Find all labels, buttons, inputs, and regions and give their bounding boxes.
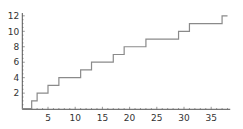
- y-tick-label: 8: [14, 42, 20, 52]
- step-series-line: [22, 16, 227, 109]
- x-tick-label: 20: [124, 113, 136, 123]
- y-tick-label: 12: [8, 11, 19, 21]
- ticks: [22, 16, 227, 109]
- x-tick-label: 10: [69, 113, 81, 123]
- y-tick-label: 10: [8, 27, 20, 37]
- axes: [22, 13, 230, 109]
- x-tick-label: 35: [205, 113, 216, 123]
- tick-labels: 510152025303524681012: [8, 11, 217, 123]
- x-tick-label: 5: [45, 113, 51, 123]
- step-chart: 510152025303524681012: [0, 0, 243, 129]
- x-tick-label: 25: [151, 113, 162, 123]
- y-tick-label: 6: [14, 57, 20, 67]
- x-tick-label: 30: [178, 113, 190, 123]
- y-tick-label: 2: [14, 88, 20, 98]
- x-tick-label: 15: [97, 113, 108, 123]
- y-tick-label: 4: [14, 73, 20, 83]
